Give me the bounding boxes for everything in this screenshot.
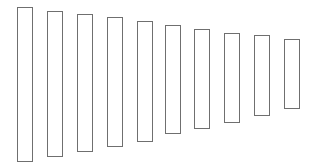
rectangle-8 bbox=[224, 33, 240, 123]
rectangle-6 bbox=[165, 25, 181, 134]
rectangle-2 bbox=[47, 11, 63, 157]
rectangle-1 bbox=[17, 7, 33, 162]
diagram-canvas bbox=[0, 0, 315, 163]
rectangle-4 bbox=[107, 17, 123, 147]
rectangle-9 bbox=[254, 35, 270, 116]
rectangle-3 bbox=[77, 14, 93, 152]
rectangle-10 bbox=[284, 39, 300, 109]
rectangle-7 bbox=[194, 29, 210, 129]
rectangle-5 bbox=[137, 21, 153, 142]
